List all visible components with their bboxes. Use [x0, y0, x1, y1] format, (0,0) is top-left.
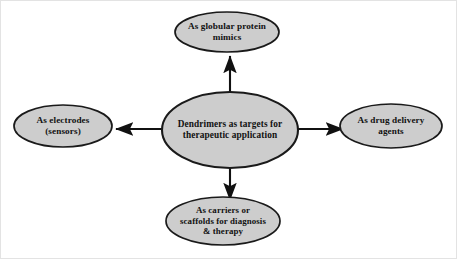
- diagram-graphics: [0, 0, 458, 260]
- node-ellipse-bottom[interactable]: [166, 197, 280, 245]
- node-ellipse-top[interactable]: [175, 12, 279, 52]
- diagram-canvas: Dendrimers as targets for therapeutic ap…: [0, 0, 458, 260]
- node-ellipse-right[interactable]: [340, 104, 442, 148]
- node-ellipse-left[interactable]: [14, 105, 112, 147]
- node-ellipse-center[interactable]: [162, 92, 298, 168]
